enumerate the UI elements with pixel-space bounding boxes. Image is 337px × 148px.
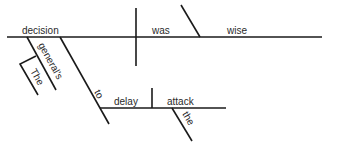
word-predicate-adjective: wise	[226, 25, 247, 36]
word-verb: was	[151, 25, 170, 36]
diagram-svg: decision was wise general's The to delay…	[0, 0, 337, 148]
predicate-adjective-divider	[181, 5, 200, 37]
word-subject: decision	[22, 25, 59, 36]
sentence-diagram: decision was wise general's The to delay…	[0, 0, 337, 148]
word-attack: attack	[167, 96, 195, 107]
word-delay: delay	[114, 96, 138, 107]
infinitive-stem-line	[60, 37, 109, 124]
